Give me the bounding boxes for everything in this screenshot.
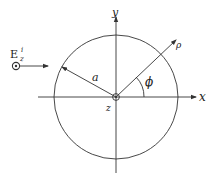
incident-field-arrow [12,62,48,69]
phi-label: ϕ [145,75,153,89]
z-axis-label: z [105,103,111,113]
radius-arrow [62,67,116,97]
field-label: E [10,48,18,61]
radius-label: a [92,71,99,84]
rho-label: ρ [175,40,182,50]
y-axis-label: y [111,6,119,19]
field-superscript: i [21,46,23,54]
phi-angle-arc [136,77,144,97]
cylinder-diagram: x y z a ρ ϕ E i z [0,0,215,180]
x-axis-label: x [199,90,206,104]
field-subscript: z [19,55,24,63]
